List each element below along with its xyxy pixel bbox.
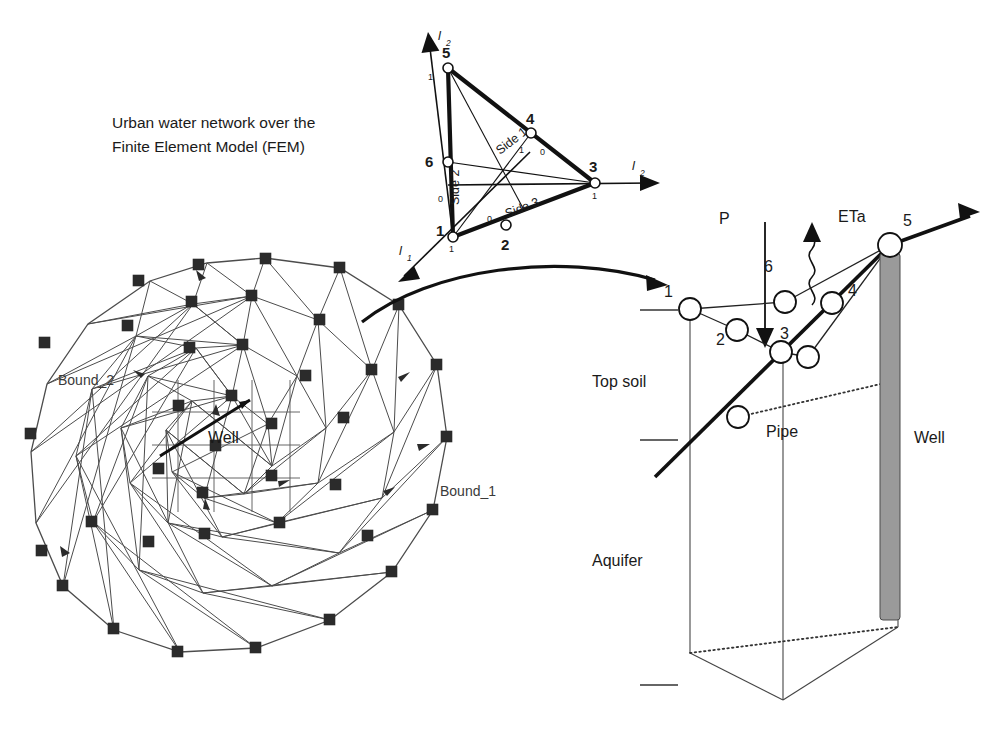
element-node-6: [443, 157, 453, 167]
element-node-1-coord: 1: [449, 244, 454, 254]
side-3-label: Side 3: [503, 195, 541, 221]
diagram-canvas: Urban water network over the Finite Elem…: [0, 0, 994, 732]
figure-title: Urban water network over the Finite Elem…: [112, 114, 315, 155]
column-node-2: [726, 319, 748, 341]
element-node-5-number: 5: [442, 44, 450, 61]
figure-root: Urban water network over the Finite Elem…: [0, 0, 994, 732]
bound-2-label: Bound_2: [58, 372, 114, 388]
evapotranspiration-wave: [809, 231, 815, 305]
element-node-5: [443, 63, 453, 73]
column-node-4-number: 4: [848, 282, 857, 299]
element-node-2: [501, 220, 511, 230]
column-node-6: [774, 291, 796, 313]
mesh-node: [36, 545, 47, 556]
element-axes: l 2 l 2 l 1: [398, 28, 660, 282]
element-node-3: [590, 178, 600, 188]
mesh-node: [122, 320, 133, 331]
depth-tick-group: [640, 310, 678, 685]
axis-l2-right-label: l: [632, 158, 636, 173]
element-node-5-coord: 1: [428, 72, 433, 82]
side-2-label: Side 2: [448, 170, 462, 205]
title-line-2: Finite Element Model (FEM): [112, 138, 305, 155]
axis-l2-right-line: [448, 183, 652, 185]
well-shaft: [880, 253, 900, 620]
mesh-node: [250, 642, 261, 653]
mesh-node: [330, 479, 341, 490]
column-node-extra-right: [797, 346, 819, 368]
mesh-node: [431, 359, 442, 370]
mesh-node: [260, 253, 271, 264]
mesh-node: [246, 290, 257, 301]
mesh-node: [197, 487, 208, 498]
mesh-node: [173, 400, 184, 411]
bound-1-label: Bound_1: [440, 483, 496, 499]
mesh-node: [274, 517, 285, 528]
mesh-node: [108, 623, 119, 634]
mesh-node: [153, 463, 164, 474]
column-node-1: [679, 298, 701, 320]
column-node-4: [821, 292, 843, 314]
mesh-node: [86, 516, 97, 527]
column-node-pipe-mid: [727, 406, 749, 428]
top-soil-label: Top soil: [592, 373, 646, 390]
soil-block-hidden-edge: [690, 627, 898, 653]
precipitation-arrow-head: [756, 328, 774, 348]
mesh-node: [186, 296, 197, 307]
mesh-node: [172, 646, 183, 657]
mesh-node: [39, 337, 50, 348]
soil-block-hidden-edge-2: [738, 380, 898, 417]
title-line-1: Urban water network over the: [112, 114, 315, 131]
mesh-node: [300, 370, 311, 381]
aquifer-label: Aquifer: [592, 552, 643, 569]
mesh-well-label: Well: [208, 429, 239, 446]
mesh-node: [57, 580, 68, 591]
mesh-node: [184, 342, 195, 353]
mesh-node: [199, 528, 210, 539]
column-node-group: [679, 233, 902, 428]
column-node-3: [770, 341, 792, 363]
mesh-node: [314, 314, 325, 325]
element-center-coord-1: 1: [519, 145, 524, 155]
soil-block: [690, 247, 898, 700]
element-node-1: [448, 232, 458, 242]
element-node-3-coord: 1: [592, 191, 597, 201]
column-node-5: [878, 233, 902, 257]
mesh-node: [427, 504, 438, 515]
well-label: Well: [914, 429, 945, 446]
fem-mesh-panel: Well Bound_2 Bound_1: [25, 253, 496, 657]
triangular-element-panel: l 2 l 2 l 1 Side 1 Side 2 Side 3: [398, 28, 660, 282]
precipitation-label: P: [719, 210, 730, 227]
element-node-4-coord: 0: [540, 147, 545, 157]
mesh-node: [362, 530, 373, 541]
element-node-6-coord: 0: [438, 194, 443, 204]
element-node-4-number: 4: [526, 110, 535, 127]
axis-l2-up-arrowhead: [419, 31, 439, 53]
element-node-3-number: 3: [589, 158, 597, 175]
mesh-node: [266, 418, 277, 429]
evapotranspiration-arrow-head: [803, 222, 821, 242]
axis-l1-arrowhead: [398, 266, 420, 282]
pipe-label: Pipe: [766, 423, 798, 440]
column-node-5-number: 5: [903, 212, 912, 229]
mesh-node: [193, 259, 204, 270]
mesh-node: [25, 428, 36, 439]
mesh-node: [143, 536, 154, 547]
mesh-node: [266, 470, 277, 481]
element-node-4: [526, 128, 536, 138]
column-node-3-number: 3: [780, 325, 789, 342]
mesh-node: [133, 275, 144, 286]
mesh-node: [366, 364, 377, 375]
mesh-node: [334, 262, 345, 273]
mesh-node: [237, 339, 248, 350]
column-node-6-number: 6: [764, 258, 773, 275]
mesh-node: [226, 390, 237, 401]
element-node-6-number: 6: [425, 153, 433, 170]
column-node-2-number: 2: [716, 331, 725, 348]
element-node-2-number: 2: [501, 236, 509, 253]
element-node-1-number: 1: [436, 222, 444, 239]
element-node-2-coord: 0: [487, 214, 492, 224]
axis-l2-up-label: l: [438, 28, 442, 43]
mesh-node: [324, 614, 335, 625]
column-node-1-number: 1: [664, 283, 673, 300]
well-pointer-head: [239, 400, 250, 409]
